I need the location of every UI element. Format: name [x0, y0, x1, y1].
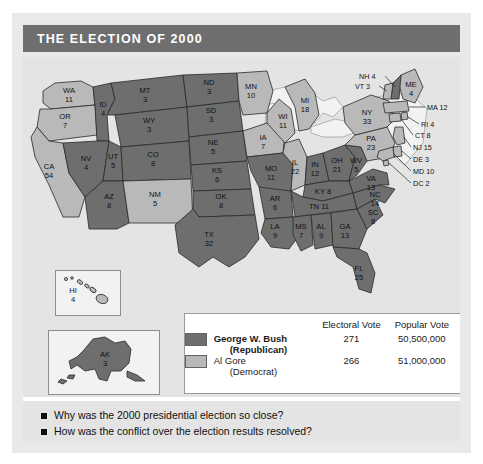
label-VA: VA	[366, 174, 377, 183]
label-VA-votes: 13	[367, 183, 375, 192]
alaska-inset-svg: AK 3	[49, 331, 157, 392]
header-electoral-vote: Electoral Vote	[319, 314, 383, 333]
label-MO: MO	[265, 164, 277, 173]
label-IN-votes: 12	[311, 169, 319, 178]
label-MD-callout: MD 10	[413, 167, 434, 176]
label-WY-votes: 3	[147, 125, 151, 134]
label-LA: LA	[270, 222, 280, 231]
label-MI-votes: 18	[301, 105, 309, 114]
label-NH-callout: NH 4	[359, 72, 375, 81]
candidate-bush-name: George W. Bush	[214, 333, 320, 344]
label-NE-votes: 5	[211, 147, 215, 156]
label-OK-votes: 8	[219, 201, 223, 210]
label-UT-votes: 5	[111, 161, 115, 170]
label-MT-votes: 3	[143, 95, 147, 104]
label-ME-votes: 4	[409, 89, 413, 98]
label-PA: PA	[366, 134, 377, 143]
label-HI-votes: 4	[71, 295, 75, 304]
header-popular-vote: Popular Vote	[384, 314, 460, 333]
label-MS: MS	[295, 222, 306, 231]
label-WV-votes: 5	[354, 165, 358, 174]
label-IA-votes: 7	[261, 142, 265, 151]
gore-popular-vote: 51,000,000	[384, 355, 460, 377]
label-NV: NV	[81, 154, 92, 163]
table-row: George W. Bush (Republican) 271 50,500,0…	[185, 333, 460, 355]
state-MA	[383, 101, 409, 113]
label-SD-votes: 3	[209, 115, 213, 124]
candidate-gore-party: (Democrat)	[214, 366, 320, 377]
label-MO-votes: 11	[267, 173, 275, 182]
label-OR-votes: 7	[63, 121, 67, 130]
label-CO: CO	[147, 150, 158, 159]
state-DE	[393, 146, 402, 157]
label-VT-callout: VT 3	[355, 82, 370, 91]
label-WI-votes: 11	[279, 121, 287, 130]
question-1-text: Why was the 2000 presidential election s…	[54, 409, 283, 422]
questions-section: Why was the 2000 presidential election s…	[23, 401, 460, 441]
label-AR-votes: 6	[273, 203, 277, 212]
leader-DC	[389, 163, 411, 183]
alaska-inset: AK 3	[48, 330, 160, 395]
legend-swatch-bush-cell	[185, 333, 214, 355]
label-WA: WA	[63, 86, 76, 95]
label-IN: IN	[311, 160, 319, 169]
label-IL: IL	[292, 158, 298, 167]
label-OK: OK	[216, 192, 227, 201]
candidate-bush-party: (Republican)	[214, 344, 320, 355]
label-AL-votes: 9	[319, 231, 323, 240]
label-DC-callout: DC 2	[413, 179, 429, 188]
bush-electoral-vote: 271	[319, 333, 383, 355]
state-CO	[121, 141, 191, 181]
question-item: Why was the 2000 presidential election s…	[23, 409, 460, 422]
label-AZ-votes: 8	[107, 201, 111, 210]
label-SD: SD	[206, 106, 217, 115]
candidate-bush: George W. Bush (Republican)	[214, 333, 320, 355]
label-KS: KS	[212, 166, 222, 175]
label-UT: UT	[108, 152, 118, 161]
label-NJ-callout: NJ 15	[413, 143, 432, 152]
label-LA-votes: 9	[273, 231, 277, 240]
page-title: THE ELECTION OF 2000	[23, 32, 203, 46]
label-WY: WY	[143, 116, 155, 125]
candidate-gore: Al Gore (Democrat)	[214, 355, 320, 377]
label-WV: WV	[350, 156, 363, 165]
label-SC-votes: 8	[371, 217, 375, 226]
gore-electoral-vote: 266	[319, 355, 383, 377]
legend-swatch-gore	[185, 355, 207, 368]
label-OR: OR	[59, 112, 71, 121]
label-ME: ME	[405, 80, 416, 89]
label-NM-votes: 5	[153, 199, 157, 208]
label-OH-votes: 21	[333, 165, 341, 174]
label-KY: KY 8	[315, 187, 331, 196]
label-AK-votes: 3	[103, 359, 107, 368]
results-table: Electoral Vote Popular Vote George W. Bu…	[185, 314, 460, 377]
label-SC: SC	[368, 208, 379, 217]
label-OH: OH	[331, 156, 342, 165]
label-CA: CA	[44, 162, 55, 171]
label-MS-votes: 7	[299, 231, 303, 240]
figure-title-bar: THE ELECTION OF 2000	[23, 25, 460, 52]
table-row: Al Gore (Democrat) 266 51,000,000	[185, 355, 460, 377]
legend-swatch-gore-cell	[185, 355, 214, 377]
label-KS-votes: 6	[215, 175, 219, 184]
map-panel: .st{ stroke:#2a2a2a; stroke-width:0.8; s…	[23, 57, 460, 397]
label-NC-votes: 14	[371, 199, 379, 208]
label-CO-votes: 8	[151, 159, 155, 168]
label-HI: HI	[69, 286, 77, 295]
label-TN: TN 11	[309, 202, 329, 211]
label-ND: ND	[204, 78, 215, 87]
label-IL-votes: 22	[291, 167, 299, 176]
legend-swatch-bush	[185, 333, 207, 346]
bullet-square-icon	[41, 413, 47, 419]
header-spacer-swatch	[185, 314, 214, 333]
label-MT: MT	[140, 86, 151, 95]
state-NE	[189, 131, 247, 165]
label-TX: TX	[204, 230, 214, 239]
label-TX-votes: 32	[205, 239, 213, 248]
state-NM	[123, 179, 193, 223]
label-CA-votes: 54	[45, 171, 53, 180]
label-FL-votes: 25	[355, 273, 363, 282]
figure-page: THE ELECTION OF 2000 .st{ stroke:#2a2a2a…	[12, 13, 471, 453]
label-ID-votes: 4	[101, 109, 105, 118]
question-item: How was the conflict over the election r…	[23, 425, 460, 438]
